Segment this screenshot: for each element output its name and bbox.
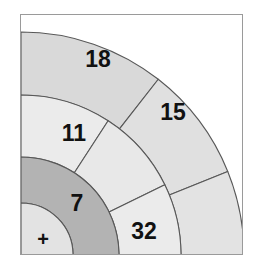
radial-sector-chart: 181511327+ [21,15,242,254]
diagram-frame: 181511327+ [20,14,243,255]
diagram-canvas: 181511327+ [0,0,260,272]
sector-group [21,32,242,254]
